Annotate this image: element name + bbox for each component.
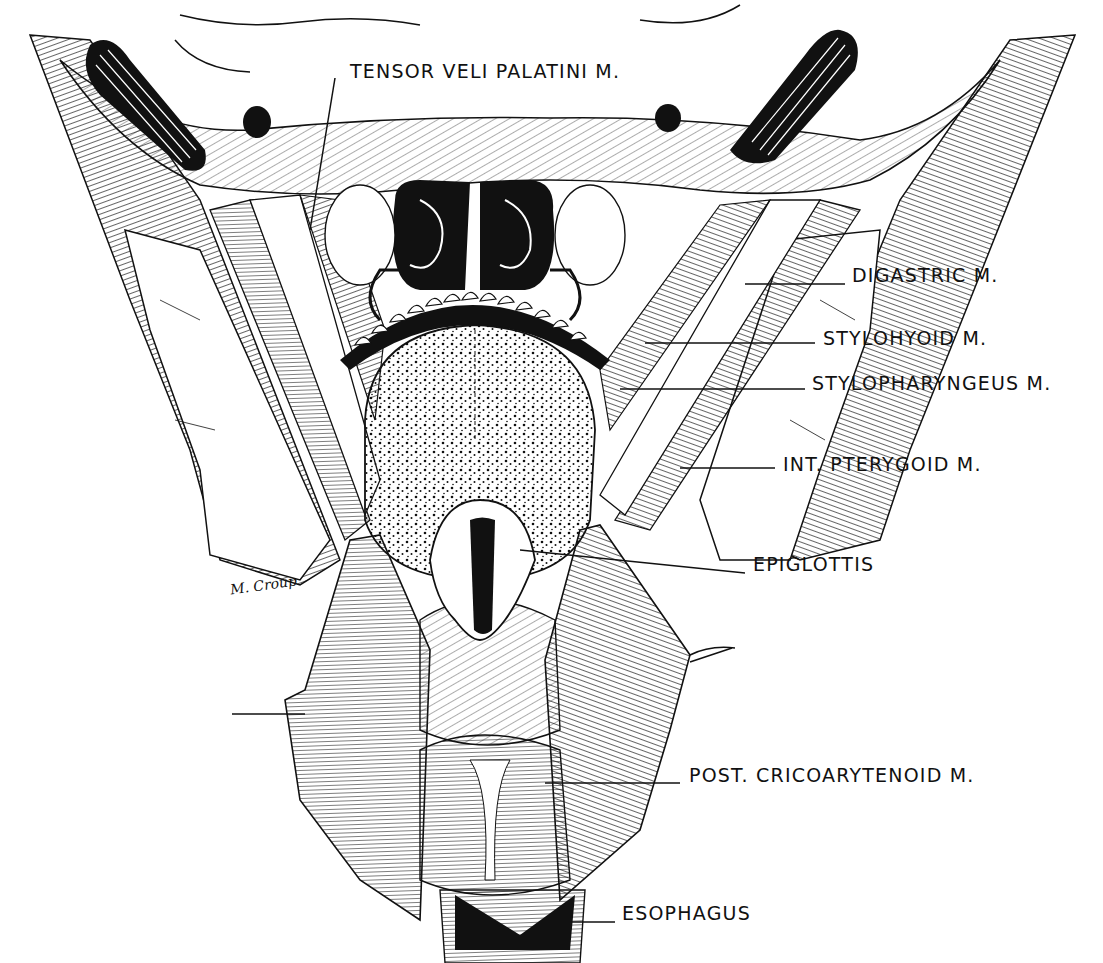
anatomical-illustration — [0, 0, 1103, 963]
label-stylohyoid: STYLOHYOID M. — [823, 329, 987, 348]
label-post-cricoarytenoid: POST. CRICOARYTENOID M. — [689, 766, 975, 785]
label-esophagus: ESOPHAGUS — [622, 904, 751, 923]
left-pharyngeal-wall — [285, 535, 430, 920]
label-int-pterygoid: INT. PTERYGOID M. — [783, 455, 982, 474]
label-digastric: DIGASTRIC M. — [852, 266, 999, 285]
label-epiglottis: EPIGLOTTIS — [753, 555, 874, 574]
label-tensor-veli-palatini: TENSOR VELI PALATINI M. — [350, 62, 620, 81]
choanae — [393, 180, 554, 290]
label-stylopharyngeus: STYLOPHARYNGEUS M. — [812, 374, 1051, 393]
